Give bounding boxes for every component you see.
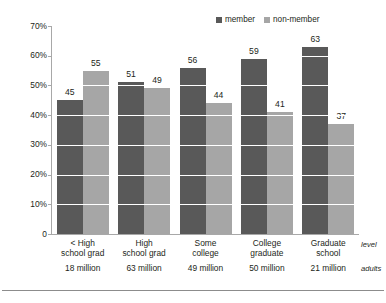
legend-swatch-member-icon: [216, 17, 222, 23]
bar-member: 51: [118, 82, 144, 234]
bar-value-label: 37: [337, 112, 347, 121]
bar-value-label: 51: [126, 70, 136, 79]
y-axis-tick-label: 60%: [7, 51, 47, 59]
bar-non-member: 49: [144, 88, 170, 234]
category-label-line: College: [236, 238, 297, 248]
bar-group: 5149: [118, 26, 170, 234]
y-axis-tick: [48, 26, 51, 27]
x-axis-category-labels: < Highschool gradHighschool gradSomecoll…: [52, 238, 359, 260]
bar-value-label: 59: [249, 47, 259, 56]
bar-group: 5644: [180, 26, 232, 234]
chart-legend: member non-member: [216, 16, 319, 24]
legend-label-member: member: [225, 16, 255, 24]
legend-entry-non-member: non-member: [264, 16, 319, 24]
legend-label-non-member: non-member: [273, 16, 319, 24]
bar-non-member: 55: [83, 71, 109, 234]
bar-member: 45: [57, 100, 83, 234]
legend-entry-member: member: [216, 16, 255, 24]
category-adults-label: 50 million: [236, 264, 297, 272]
plot-area: 45555149564459416337: [51, 26, 359, 234]
y-axis-tick-label: 0: [7, 230, 47, 238]
category-adults-label: 49 million: [175, 264, 236, 272]
bar-group: 5941: [241, 26, 293, 234]
bar-non-member: 44: [206, 103, 232, 234]
bar-non-member: 37: [328, 124, 354, 234]
bar-value-label: 41: [275, 100, 285, 109]
category-label-line: school grad: [113, 248, 174, 258]
y-axis-tick: [48, 204, 51, 205]
category-label: Highschool grad: [113, 238, 174, 258]
bar-value-label: 45: [65, 88, 75, 97]
y-axis-tick-label: 40%: [7, 111, 47, 119]
y-axis-tick: [48, 175, 51, 176]
category-label: Graduateschool: [298, 238, 359, 258]
y-axis-tick-label: 70%: [7, 22, 47, 30]
category-label-line: High: [113, 238, 174, 248]
category-adults-label: 18 million: [52, 264, 113, 272]
bar-member: 63: [302, 47, 328, 234]
bar-chart: member non-member 70%60%50%40%30%20%10%0…: [0, 0, 386, 303]
category-label-line: college: [175, 248, 236, 258]
bar-value-label: 49: [152, 76, 162, 85]
y-axis-tick-label: 50%: [7, 81, 47, 89]
y-axis-tick-label: 30%: [7, 140, 47, 148]
x-axis-title-adults: adults: [361, 265, 381, 273]
bar-value-label: 63: [311, 35, 321, 44]
category-label-line: school: [298, 248, 359, 258]
category-label-line: Graduate: [298, 238, 359, 248]
category-label: Collegegraduate: [236, 238, 297, 258]
bar-member: 59: [241, 59, 267, 234]
bottom-divider: [2, 290, 384, 291]
bar-value-label: 44: [214, 91, 224, 100]
bar-value-label: 55: [91, 59, 101, 68]
y-axis-tick-labels: 70%60%50%40%30%20%10%0: [4, 26, 47, 234]
category-label: Somecollege: [175, 238, 236, 258]
bar-group: 4555: [57, 26, 109, 234]
category-adults-label: 21 million: [298, 264, 359, 272]
category-label: < Highschool grad: [52, 238, 113, 258]
y-axis-tick-label: 20%: [7, 170, 47, 178]
y-axis-tick-label: 10%: [7, 200, 47, 208]
legend-swatch-non-member-icon: [264, 17, 270, 23]
y-axis-tick: [48, 85, 51, 86]
bar-group: 6337: [302, 26, 354, 234]
bar-groups: 45555149564459416337: [52, 26, 359, 234]
x-axis-adults-labels: 18 million63 million49 million50 million…: [52, 264, 359, 276]
y-axis-tick: [48, 115, 51, 116]
y-axis-tick: [48, 145, 51, 146]
bar-value-label: 56: [188, 56, 198, 65]
category-label-line: school grad: [52, 248, 113, 258]
category-label-line: Some: [175, 238, 236, 248]
x-axis-line: [51, 234, 359, 235]
bar-member: 56: [180, 68, 206, 234]
bar-non-member: 41: [267, 112, 293, 234]
category-label-line: graduate: [236, 248, 297, 258]
category-label-line: < High: [52, 238, 113, 248]
y-axis-tick: [48, 234, 51, 235]
x-axis-title-level: level: [361, 241, 377, 249]
y-axis-tick: [48, 56, 51, 57]
category-adults-label: 63 million: [113, 264, 174, 272]
